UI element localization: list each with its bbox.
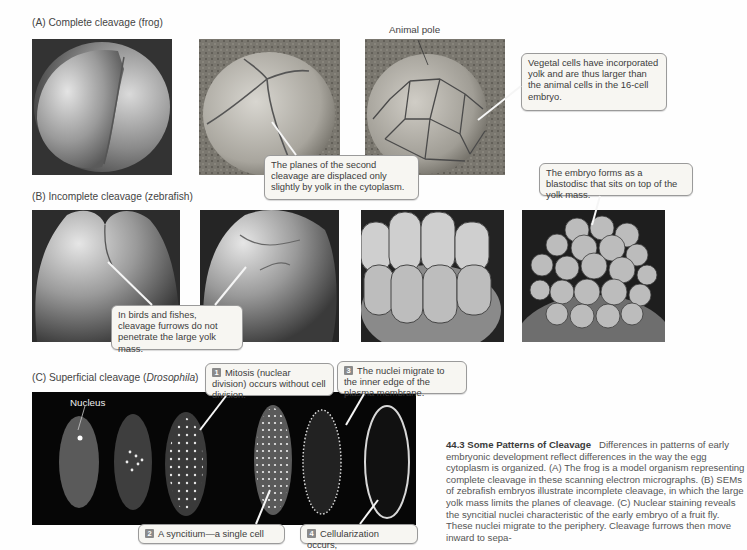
callout-furrows: In birds and fishes, cleavage furrows do… <box>111 305 243 350</box>
callout-step-4: 4Cellularization occurs, <box>300 524 418 544</box>
callout-vegetal-cells: Vegetal cells have incorporated yolk and… <box>521 53 667 111</box>
step-4-badge: 4 <box>307 529 316 538</box>
caption-title: 44.3 Some Patterns of Cleavage <box>446 439 591 450</box>
drosophila-embryo-strip <box>32 392 416 525</box>
callout-blastodisc: The embryo forms as a blastodisc that si… <box>539 163 693 196</box>
panel-c-label: (C) Superficial cleavage (Drosophila) <box>32 372 198 383</box>
callout-step-2: 2A syncitium—a single cell <box>138 524 285 544</box>
caption-body: Differences in patterns of early embryon… <box>446 439 744 543</box>
panel-b-label: (B) Incomplete cleavage (zebrafish) <box>32 191 193 202</box>
nucleus-label: Nucleus <box>70 397 105 408</box>
frog-2-cell-image <box>32 39 172 175</box>
zebrafish-8-cell-image <box>361 210 504 342</box>
callout-step-3: 3The nuclei migrate to the inner edge of… <box>337 361 467 394</box>
zebrafish-blastodisc-image <box>522 210 665 342</box>
callout-step-1: 1Mitosis (nuclear division) occurs witho… <box>205 363 334 396</box>
figure-caption: 44.3 Some Patterns of Cleavage Differenc… <box>446 439 746 543</box>
animal-pole-label: Animal pole <box>389 24 440 35</box>
step-1-badge: 1 <box>212 368 221 377</box>
callout-second-cleavage-planes: The planes of the second cleavage are di… <box>264 155 419 200</box>
step-2-badge: 2 <box>145 529 154 538</box>
panel-a-label: (A) Complete cleavage (frog) <box>32 17 163 28</box>
step-3-badge: 3 <box>344 366 353 375</box>
